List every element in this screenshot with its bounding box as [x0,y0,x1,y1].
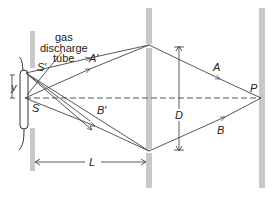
D-dimension [174,46,184,151]
gas-discharge-tube [19,57,28,150]
A-label: A [212,61,220,73]
double-slit-diagram: y D L gas [0,0,278,197]
D-label: D [175,109,183,121]
P-label: P [250,82,258,94]
S-label: S [32,102,40,114]
tube-label-line3: tube [53,52,74,64]
B-label: B [217,124,224,136]
y-dimension: y [10,75,18,98]
S-prime-label: S′ [37,61,47,73]
A-prime-label: A′ [88,52,99,64]
y-label: y [10,81,18,93]
L-label: L [89,156,95,168]
B-prime-label: B′ [97,104,107,116]
